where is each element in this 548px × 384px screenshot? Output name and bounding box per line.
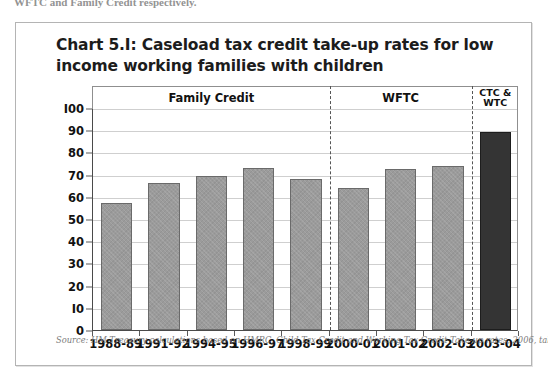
period-band-label: WFTC — [330, 87, 472, 109]
source-note: Source: HM Treasury calculations based o… — [56, 335, 516, 345]
y-axis-tick-label: 90 — [68, 124, 84, 138]
bar-1998-99 — [290, 179, 321, 330]
period-divider — [472, 86, 473, 330]
y-axis-tick-label: 40 — [68, 235, 84, 249]
gridline — [93, 109, 517, 110]
chart-title: Chart 5.I: Caseload tax credit take-up r… — [56, 35, 508, 76]
period-header-band: Family CreditWFTCCTC &WTC — [92, 86, 518, 109]
page-cutoff-text: WFTC and Family Credit respectively. — [14, 0, 314, 10]
bar-1988-89 — [101, 203, 132, 330]
chart-plot-wrapper: 0I02030405060708090I00 Family CreditWFTC… — [56, 86, 518, 331]
y-axis: 0I02030405060708090I00 — [56, 109, 84, 331]
y-axis-tick-label: 70 — [68, 169, 84, 183]
y-axis-tick-label: I0 — [72, 302, 84, 316]
bar-1996-97 — [243, 168, 274, 330]
period-band-label: Family Credit — [93, 87, 330, 109]
bar-1991-92 — [148, 183, 179, 330]
bar-1994-95 — [196, 176, 227, 330]
bar-2001-02 — [385, 169, 416, 330]
chart-figure-box: Chart 5.I: Caseload tax credit take-up r… — [15, 22, 532, 366]
y-axis-tick-label: 80 — [68, 146, 84, 160]
y-axis-tick-label: 50 — [68, 213, 84, 227]
bar-2000-01 — [338, 188, 369, 330]
bar-2002-03 — [432, 166, 463, 330]
period-divider — [330, 86, 331, 330]
plot-area — [92, 109, 518, 331]
y-axis-tick-label: 60 — [68, 191, 84, 205]
y-axis-tick-label: 30 — [68, 257, 84, 271]
y-axis-tick-label: I00 — [64, 102, 84, 116]
gridline — [93, 153, 517, 154]
gridline — [93, 131, 517, 132]
y-axis-tick-label: 20 — [68, 280, 84, 294]
period-band-label: CTC &WTC — [472, 87, 519, 109]
bar-2003-04 — [480, 132, 511, 330]
